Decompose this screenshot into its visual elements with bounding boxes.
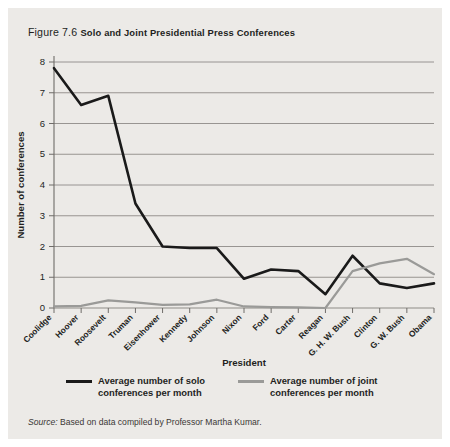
y-axis-tick-label: 0	[40, 302, 45, 313]
x-axis-tick-label: Nixon	[220, 312, 244, 336]
legend-item-joint: Average number of joint conferences per …	[238, 375, 388, 399]
source-note: Source: Based on data compiled by Profes…	[28, 417, 262, 427]
y-axis-tick-label: 1	[40, 271, 45, 282]
x-axis-tick-label: Ford	[250, 312, 270, 332]
legend-swatch-solo-icon	[66, 380, 92, 383]
legend-swatch-joint-icon	[238, 380, 264, 383]
y-axis-tick-label: 4	[40, 179, 45, 190]
y-axis-title: Number of conferences	[15, 131, 26, 238]
x-axis-tick-label: Carter	[273, 312, 298, 337]
y-axis-tick-label: 3	[40, 210, 45, 221]
figure-panel: Figure 7.6 Solo and Joint Presidential P…	[8, 8, 442, 439]
x-axis-title: President	[222, 357, 267, 368]
source-label: Source:	[28, 417, 58, 427]
y-axis-tick-label: 7	[40, 87, 45, 98]
x-axis-tick-label: Coolidge	[21, 312, 54, 345]
y-axis-tick-label: 2	[40, 241, 45, 252]
source-text: Based on data compiled by Professor Mart…	[58, 417, 262, 427]
y-axis-tick-label: 8	[40, 56, 45, 67]
x-axis-tick-label: Johnson	[185, 312, 217, 344]
x-axis-tick-label: Kennedy	[157, 312, 189, 344]
y-axis-tick-label: 5	[40, 148, 45, 159]
x-axis-tick-label: Obama	[406, 312, 433, 339]
series-line-solo	[54, 68, 434, 294]
legend-label-joint: Average number of joint conferences per …	[270, 375, 388, 399]
legend-item-solo: Average number of solo conferences per m…	[66, 375, 216, 399]
chart-legend: Average number of solo conferences per m…	[66, 375, 396, 399]
series-line-joint	[54, 259, 434, 308]
y-axis-tick-label: 6	[40, 118, 45, 129]
legend-label-solo: Average number of solo conferences per m…	[98, 375, 216, 399]
